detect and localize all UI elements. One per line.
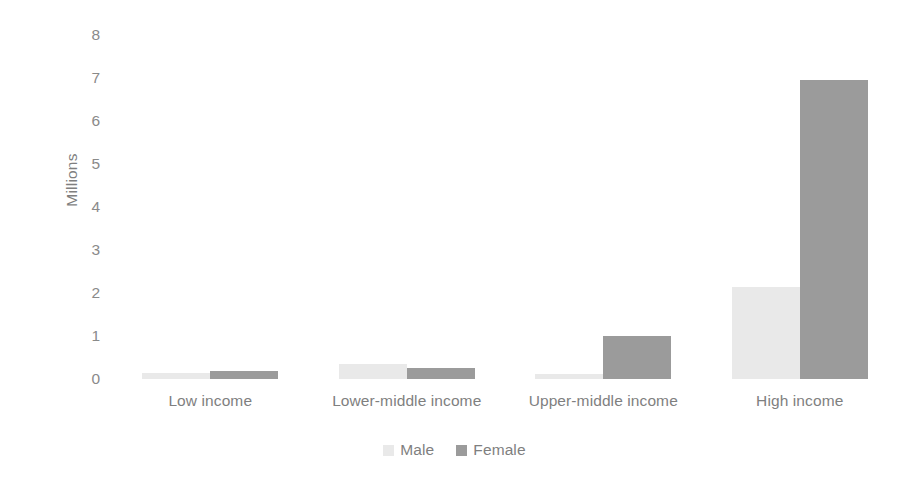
plot-area [112,35,898,379]
x-axis-tick-label: Low income [168,392,252,410]
legend-label: Male [400,441,434,459]
legend-swatch-icon [383,445,394,456]
y-axis-tick-label: 4 [56,199,100,215]
chart-legend: MaleFemale [0,441,909,459]
y-axis-tick-label: 7 [56,70,100,86]
y-axis-tick-label: 3 [56,242,100,258]
bar-high-income-female [800,80,868,379]
bar-low-income-female [210,371,278,379]
y-axis-tick-label: 0 [56,371,100,387]
y-axis-tick-label: 8 [56,27,100,43]
x-axis-tick-labels: Low incomeLower-middle incomeUpper-middl… [112,392,898,418]
bar-group [309,35,506,379]
bar-chart: Millions 012345678 Low incomeLower-middl… [0,0,909,498]
bar-group [505,35,702,379]
y-axis-tick-label: 6 [56,113,100,129]
y-axis-tick-label: 2 [56,285,100,301]
bar-lower-middle-income-female [407,368,475,379]
bar-low-income-male [142,373,210,379]
x-axis-tick-label: Upper-middle income [529,392,678,410]
legend-entry-male[interactable]: Male [383,441,434,459]
y-axis-tick-label: 5 [56,156,100,172]
y-axis-tick-labels: 012345678 [56,0,100,498]
legend-label: Female [473,441,525,459]
x-axis-tick-label: High income [756,392,843,410]
bar-group [702,35,899,379]
legend-swatch-icon [456,445,467,456]
x-axis-tick-label: Lower-middle income [332,392,481,410]
bar-high-income-male [732,287,800,379]
bar-lower-middle-income-male [339,364,407,379]
y-axis-tick-label: 1 [56,328,100,344]
bar-group [112,35,309,379]
legend-entry-female[interactable]: Female [456,441,525,459]
bar-upper-middle-income-female [603,336,671,379]
bar-upper-middle-income-male [535,374,603,379]
